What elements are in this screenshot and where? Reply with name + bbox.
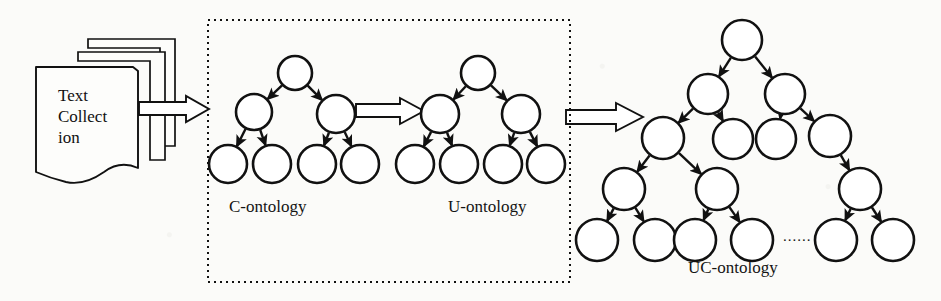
tree-edge	[841, 155, 849, 170]
tree-edge	[679, 153, 701, 174]
tree-edge	[637, 156, 649, 172]
figure-canvas: Text Collect ion C-ontology U-ontology U…	[0, 0, 941, 301]
block-arrows-group	[139, 96, 643, 131]
c-ontology-label: C-ontology	[229, 197, 306, 217]
tree-edge	[607, 208, 613, 220]
tree-node	[722, 20, 762, 60]
tree-node	[440, 145, 478, 183]
tree-edge	[872, 208, 881, 222]
tree-node	[461, 56, 495, 90]
uc-ontology-label: UC-ontology	[688, 258, 778, 278]
tree-node	[696, 168, 738, 210]
text-collection-label: Text Collect ion	[58, 85, 107, 148]
tree-edge	[447, 133, 452, 146]
tree-edge	[345, 132, 352, 146]
diagram-scene	[0, 0, 941, 301]
tree-node	[872, 219, 914, 261]
tree-node	[236, 94, 272, 130]
tree-node	[317, 95, 355, 133]
tree-edge	[454, 86, 466, 99]
tree-edge	[424, 132, 431, 146]
tree-edge	[755, 56, 772, 77]
u-ontology-label: U-ontology	[448, 197, 526, 217]
arrow-u-to-uc	[566, 103, 643, 131]
tree-edge	[718, 112, 723, 120]
tree-edge	[510, 133, 514, 145]
tree-edge	[324, 133, 329, 146]
tree-node	[396, 145, 434, 183]
tree-edge	[800, 108, 814, 121]
tree-node	[253, 145, 291, 183]
tree-node	[674, 219, 716, 261]
tree-node	[421, 95, 459, 133]
tree-node	[815, 219, 857, 261]
tree-node	[713, 119, 753, 159]
tree-edge	[491, 85, 507, 100]
arrow-c-to-u	[356, 98, 424, 124]
tree-edge	[780, 115, 781, 119]
tree-node	[839, 168, 881, 210]
tree-node	[634, 219, 676, 261]
tree-node	[688, 74, 728, 114]
ellipsis-label: ......	[783, 228, 812, 245]
tree-node	[298, 145, 336, 183]
tree-edge	[260, 130, 265, 145]
tree-node	[756, 119, 796, 159]
tree-node	[527, 145, 565, 183]
tree-edge	[719, 58, 731, 76]
tree-node	[484, 145, 522, 183]
tree-node	[765, 74, 805, 114]
tree-edge	[704, 209, 709, 220]
tree-edge	[268, 85, 282, 99]
tree-edge	[635, 208, 643, 221]
tree-edge	[237, 129, 246, 146]
tree-edge	[308, 86, 322, 100]
tree-node	[809, 115, 851, 157]
tree-node	[731, 219, 773, 261]
tree-node	[209, 145, 247, 183]
tree-node	[341, 145, 379, 183]
tree-edge	[729, 207, 739, 222]
tree-node	[278, 56, 312, 90]
tree-node	[642, 117, 684, 159]
tree-node	[603, 168, 645, 210]
tree-node	[502, 95, 540, 133]
tree-nodes-layer	[209, 20, 914, 261]
tree-edge	[530, 132, 537, 146]
tree-node	[576, 219, 618, 261]
tree-edge	[845, 209, 850, 220]
tree-edge	[679, 109, 693, 123]
